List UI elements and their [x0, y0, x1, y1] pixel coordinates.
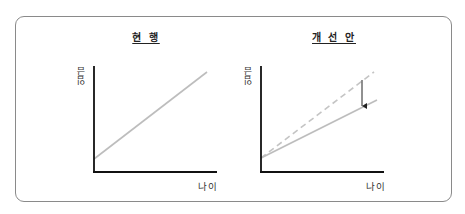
panel-improved-chart — [260, 66, 384, 172]
panel-title-improved: 개 선 안 — [312, 29, 356, 44]
x-axis-label: 나이 — [366, 179, 385, 193]
x-axis-label: 나이 — [198, 179, 217, 193]
wage-comparison-plots — [0, 0, 465, 214]
y-axis-label: 임금 — [74, 67, 87, 85]
previous-wage-dashed-line — [261, 72, 374, 158]
panel-title-current: 현 행 — [132, 29, 159, 44]
panel-current-chart — [93, 66, 217, 172]
improved-wage-line — [261, 100, 377, 158]
y-axis-label: 임금 — [241, 67, 254, 85]
current-wage-line — [94, 72, 207, 159]
